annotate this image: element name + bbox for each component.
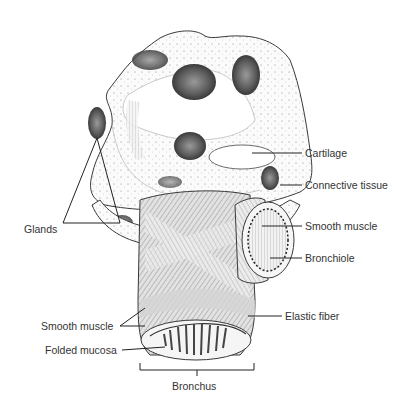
gland: [158, 176, 182, 188]
gland: [261, 166, 279, 190]
label-smooth-muscle-right: Smooth muscle: [305, 220, 378, 232]
label-folded-mucosa: Folded mucosa: [45, 344, 117, 356]
label-cartilage: Cartilage: [305, 147, 347, 159]
bronchus-opening: [141, 320, 251, 360]
gland: [174, 132, 206, 160]
bronchiole: [235, 198, 294, 283]
label-bronchus: Bronchus: [172, 380, 216, 392]
gland: [232, 55, 260, 95]
cartilage-plate: [209, 145, 275, 169]
gland: [88, 107, 106, 139]
label-glands: Glands: [24, 223, 57, 235]
bronchus-diagram: Cartilage Connective tissue Glands Smoot…: [0, 0, 414, 409]
label-elastic-fiber: Elastic fiber: [285, 310, 340, 322]
gland: [172, 64, 216, 100]
label-connective-tissue: Connective tissue: [305, 179, 388, 191]
label-bronchiole: Bronchiole: [305, 252, 355, 264]
gland: [132, 50, 168, 70]
label-smooth-muscle-left: Smooth muscle: [41, 320, 114, 332]
